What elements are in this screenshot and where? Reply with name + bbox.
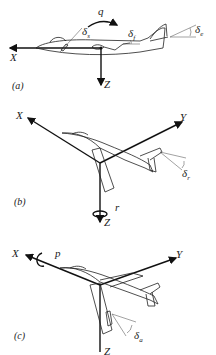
x-axis-label-a: X bbox=[10, 52, 17, 63]
y-axis-arrow bbox=[100, 258, 176, 285]
y-axis-arrow bbox=[100, 122, 182, 163]
y-axis-label-b: Y bbox=[180, 112, 186, 123]
elevator-deflection-label: δe bbox=[195, 24, 203, 35]
panel-label-c: (c) bbox=[14, 330, 25, 341]
flap-deflection-label: δf bbox=[128, 28, 135, 39]
panel-label-b: (b) bbox=[14, 196, 26, 207]
x-axis-arrow bbox=[28, 118, 100, 163]
roll-rate-label: p bbox=[55, 248, 61, 259]
yaw-rate-label: r bbox=[115, 202, 119, 213]
z-axis-label-a: Z bbox=[104, 79, 110, 90]
z-axis-label-b: Z bbox=[104, 217, 110, 228]
x-axis-label-c: X bbox=[12, 248, 19, 259]
stabilizer-deflection-label: δs bbox=[82, 26, 90, 37]
panel-a-aircraft bbox=[10, 21, 196, 85]
z-axis-label-c: Z bbox=[104, 346, 110, 355]
panel-c-aircraft bbox=[26, 253, 176, 352]
pitch-rate-label: q bbox=[98, 6, 104, 17]
y-axis-label-c: Y bbox=[176, 249, 182, 260]
panel-label-a: (a) bbox=[12, 80, 24, 91]
pitch-rotation-arrow bbox=[88, 21, 117, 27]
panel-b-aircraft bbox=[28, 118, 186, 222]
x-axis-label-b: X bbox=[16, 110, 23, 121]
rudder-deflection-label: δr bbox=[182, 168, 190, 179]
aileron-deflection-label: δa bbox=[134, 330, 143, 341]
